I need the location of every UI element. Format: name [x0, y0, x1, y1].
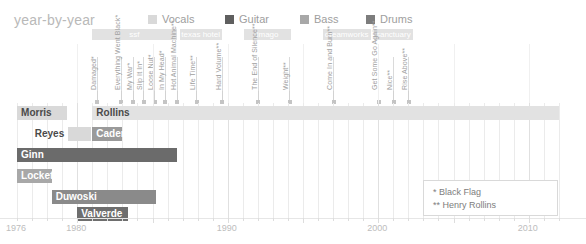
- album-leader-line: [333, 57, 334, 91]
- axis-tick: [107, 218, 108, 221]
- axis-tick: [484, 218, 485, 221]
- axis-tick: [423, 218, 424, 221]
- axis-tick: [514, 218, 515, 221]
- gridline-upper: [77, 44, 78, 103]
- gridline-upper: [454, 44, 455, 103]
- axis-tick: [318, 218, 319, 221]
- gridline-upper: [303, 44, 304, 103]
- album-title: The End of Silence**: [251, 23, 258, 90]
- axis-tick: [243, 218, 244, 221]
- member-row: Rollins: [0, 106, 586, 120]
- axis-tick: [469, 218, 470, 221]
- axis-tick-label: 1980: [66, 223, 86, 233]
- axis-tick-label: 2010: [518, 223, 538, 233]
- axis-tick: [303, 218, 304, 223]
- axis-tick: [17, 218, 18, 221]
- member-row: Cadena: [0, 127, 586, 141]
- album-title: My War*: [126, 63, 133, 90]
- member-row: Ginn: [0, 148, 586, 162]
- record-label-bar[interactable]: sanctuary: [374, 29, 413, 40]
- album-leader-line: [133, 57, 134, 91]
- album-title: In My Head*: [158, 50, 165, 90]
- axis-tick: [213, 218, 214, 221]
- gridline-upper: [378, 44, 379, 103]
- axis-tick: [408, 218, 409, 221]
- axis-tick: [92, 218, 93, 221]
- gridline-upper: [529, 44, 530, 103]
- member-name-label: Duwoski: [56, 190, 97, 204]
- axis-tick: [288, 218, 289, 221]
- year-by-year-timeline-chart: year-by-year VocalsGuitarBassDrums ssfte…: [0, 0, 586, 244]
- axis-tick: [544, 218, 545, 221]
- axis-tick: [62, 218, 63, 221]
- axis-tick-label: 1976: [6, 223, 26, 233]
- legend-label: Drums: [380, 13, 412, 25]
- album-annotations: Damaged*Everything Went Black*My War*Sli…: [0, 42, 586, 103]
- album-leader-line: [154, 57, 155, 91]
- footnote-box: * Black Flag** Henry Rollins: [423, 180, 558, 216]
- legend-swatch-icon: [148, 15, 157, 24]
- album-title: Hard Volume**: [215, 43, 222, 90]
- member-name-label: Cadena: [96, 127, 132, 141]
- album-title: Nice**: [386, 70, 393, 90]
- axis-tick: [183, 218, 184, 221]
- album-title: Life Time**: [189, 55, 196, 90]
- member-bar[interactable]: [92, 106, 559, 120]
- member-name-label: Ginn: [21, 148, 44, 162]
- axis-tick: [333, 218, 334, 221]
- album-title: Damaged*: [90, 56, 97, 90]
- axis-tick: [32, 218, 33, 221]
- axis-tick: [559, 218, 560, 221]
- axis-tick: [438, 218, 439, 221]
- axis-tick-label: 2000: [367, 223, 387, 233]
- gridline-upper: [153, 44, 154, 103]
- record-label-band: ssftexas hotelimagodreamworkssanctuary: [0, 29, 586, 40]
- album-leader-line: [143, 57, 144, 91]
- legend-swatch-icon: [300, 15, 309, 24]
- record-label-bar[interactable]: texas hotel: [180, 29, 222, 40]
- member-name-label: Lockett: [21, 169, 57, 183]
- album-leader-line: [289, 57, 290, 91]
- legend-label: Vocals: [162, 13, 194, 25]
- axis-tick: [122, 218, 123, 221]
- album-leader-line: [121, 57, 122, 91]
- album-leader-line: [196, 57, 197, 91]
- album-title: Everything Went Black*: [114, 15, 121, 90]
- axis-tick: [137, 218, 138, 221]
- footnote-line: ** Henry Rollins: [433, 199, 548, 212]
- axis-tick: [258, 218, 259, 221]
- axis-tick: [348, 218, 349, 221]
- footnote-line: * Black Flag: [433, 186, 548, 199]
- album-leader-line: [393, 57, 394, 91]
- axis-tick: [153, 218, 154, 223]
- legend-swatch-icon: [225, 15, 234, 24]
- legend-item-bass[interactable]: Bass: [300, 13, 338, 25]
- album-title: Come In and Burn**: [326, 26, 333, 90]
- axis-tick: [168, 218, 169, 221]
- legend-label: Bass: [314, 13, 338, 25]
- axis-tick: [273, 218, 274, 221]
- axis-tick: [499, 218, 500, 221]
- page-title: year-by-year: [14, 12, 95, 28]
- album-title: Slip It In*: [136, 61, 143, 90]
- axis-tick-label: 1990: [217, 223, 237, 233]
- album-title: Hot Animal Machine**: [170, 20, 177, 90]
- axis-tick: [198, 218, 199, 221]
- legend-item-guitar[interactable]: Guitar: [225, 13, 269, 25]
- album-title: Get Some Go Again**: [371, 20, 378, 90]
- gridline-upper: [228, 44, 229, 103]
- album-title: Weight**: [282, 62, 289, 90]
- axis-tick: [454, 218, 455, 223]
- axis-tick: [363, 218, 364, 221]
- axis-tick: [47, 218, 48, 221]
- axis-tick: [393, 218, 394, 221]
- x-axis: 19761980199020002010: [0, 218, 586, 244]
- member-name-label: Rollins: [96, 106, 129, 120]
- record-label-bar[interactable]: ssf: [92, 29, 176, 40]
- album-title: Rise Above**: [401, 48, 408, 90]
- album-leader-line: [408, 57, 409, 91]
